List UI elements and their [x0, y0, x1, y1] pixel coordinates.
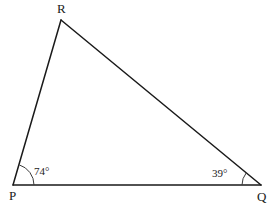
triangle-diagram: 74° 39° P Q R [0, 0, 276, 207]
side-rq [61, 20, 261, 185]
vertex-label-r: R [57, 1, 66, 16]
side-pr [13, 20, 61, 185]
angle-arc-p [19, 165, 34, 185]
angle-label-p: 74° [34, 165, 49, 177]
angle-arc-q [242, 173, 246, 185]
vertex-label-q: Q [257, 189, 267, 204]
diagram-canvas: 74° 39° P Q R [0, 0, 276, 207]
vertex-label-p: P [9, 188, 16, 203]
angle-label-q: 39° [212, 167, 227, 179]
